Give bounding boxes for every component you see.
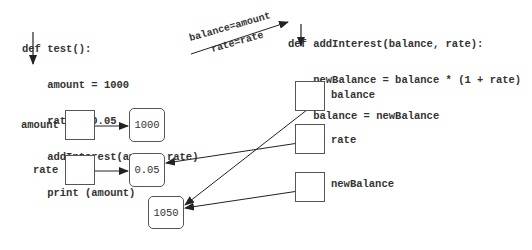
code-line: def test(): (22, 43, 198, 55)
var-label-amount: amount (21, 119, 59, 131)
var-label-rate-param: rate (331, 134, 356, 146)
value-box-005: 0.05 (129, 153, 165, 187)
var-box-rate-param (295, 124, 325, 154)
var-label-rate: rate (33, 164, 58, 176)
callee-code: def addInterest(balance, rate): newBalan… (288, 14, 521, 134)
caller-code: def test(): amount = 1000 rate = 0.05 ad… (22, 19, 198, 211)
code-line: def addInterest(balance, rate): (288, 38, 521, 50)
newbalance-ref-arrow (185, 189, 312, 208)
var-box-rate (65, 155, 95, 185)
var-label-newbalance: newBalance (331, 178, 394, 190)
value-box-1000: 1000 (129, 108, 165, 142)
value-box-1050: 1050 (148, 196, 184, 229)
var-box-newbalance (295, 172, 325, 202)
code-line: balance = newBalance (288, 110, 521, 122)
var-box-balance (295, 81, 325, 111)
var-box-amount (65, 110, 95, 140)
var-label-balance: balance (331, 89, 375, 101)
code-line: addInterest(amount,rate) (22, 151, 198, 163)
code-line: amount = 1000 (22, 79, 198, 91)
